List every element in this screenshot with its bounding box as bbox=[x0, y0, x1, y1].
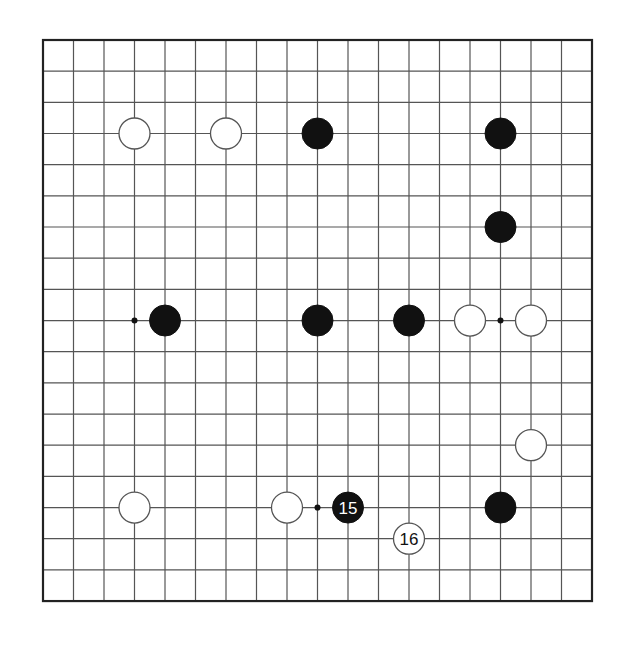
star-point bbox=[498, 318, 504, 324]
stone-circle bbox=[394, 305, 425, 336]
stones-layer: 1516 bbox=[119, 118, 547, 554]
stone-circle bbox=[302, 118, 333, 149]
black-stone bbox=[302, 118, 333, 149]
stone-circle bbox=[211, 118, 242, 149]
black-stone bbox=[150, 305, 181, 336]
stone-circle bbox=[516, 305, 547, 336]
black-stone bbox=[485, 118, 516, 149]
black-stone bbox=[485, 492, 516, 523]
white-stone bbox=[272, 492, 303, 523]
white-stone bbox=[516, 305, 547, 336]
stone-circle bbox=[119, 492, 150, 523]
star-point bbox=[132, 318, 138, 324]
stone-circle bbox=[119, 118, 150, 149]
stone-circle bbox=[516, 430, 547, 461]
black-stone bbox=[302, 305, 333, 336]
move-number-label: 15 bbox=[339, 499, 358, 518]
white-stone: 16 bbox=[394, 523, 425, 554]
stone-circle bbox=[150, 305, 181, 336]
stone-circle bbox=[485, 492, 516, 523]
white-stone bbox=[119, 492, 150, 523]
stone-circle bbox=[485, 212, 516, 243]
black-stone bbox=[485, 212, 516, 243]
stone-circle bbox=[302, 305, 333, 336]
black-stone bbox=[394, 305, 425, 336]
stone-circle bbox=[455, 305, 486, 336]
white-stone bbox=[516, 430, 547, 461]
star-point bbox=[315, 505, 321, 511]
move-number-label: 16 bbox=[400, 530, 419, 549]
white-stone bbox=[455, 305, 486, 336]
stone-circle bbox=[485, 118, 516, 149]
black-stone: 15 bbox=[333, 492, 364, 523]
white-stone bbox=[211, 118, 242, 149]
stone-circle bbox=[272, 492, 303, 523]
go-board: 1516 bbox=[0, 0, 626, 647]
white-stone bbox=[119, 118, 150, 149]
